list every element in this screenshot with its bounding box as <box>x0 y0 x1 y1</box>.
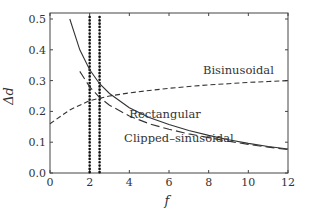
y-tick-label: 0.0 <box>29 167 47 180</box>
y-tick-label: 0.3 <box>29 75 47 88</box>
vertical-marker-lines <box>90 17 100 173</box>
annotation-rectangular: Rectangular <box>129 107 201 121</box>
x-tick-label: 6 <box>166 176 173 189</box>
x-tick-label: 2 <box>86 176 93 189</box>
curve-labels: BisinusoidalRectangularClipped–sinusoida… <box>124 63 274 145</box>
x-tick-label: 10 <box>241 176 255 189</box>
annotation-clipped-sinusoidal: Clipped–sinusoidal <box>124 131 234 145</box>
y-axis-title: Δd <box>1 87 16 106</box>
y-tick-label: 0.4 <box>29 44 47 57</box>
y-axis: 0.00.10.20.30.40.5 <box>29 13 289 180</box>
y-tick-label: 0.2 <box>29 105 47 118</box>
x-tick-label: 0 <box>47 176 54 189</box>
series-lines <box>50 19 288 150</box>
x-tick-label: 12 <box>281 176 295 189</box>
chart: 024681012 0.00.10.20.30.40.5 Bisinusoida… <box>0 0 309 214</box>
series-rectangular <box>70 19 288 149</box>
x-axis-title: f <box>164 193 172 208</box>
x-tick-label: 8 <box>205 176 212 189</box>
y-tick-label: 0.1 <box>29 136 47 149</box>
plot-frame <box>50 13 288 173</box>
annotation-bisinusoidal: Bisinusoidal <box>203 63 274 77</box>
x-axis: 024681012 <box>47 13 296 189</box>
x-tick-label: 4 <box>126 176 133 189</box>
y-tick-label: 0.5 <box>29 13 47 26</box>
